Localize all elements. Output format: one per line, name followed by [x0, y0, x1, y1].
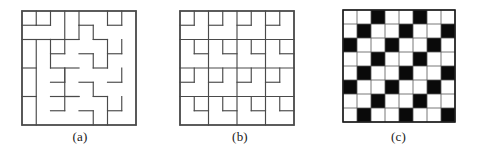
board-cell-white: [441, 10, 455, 24]
board-cell-white: [343, 10, 357, 24]
board-cell-white: [371, 108, 385, 122]
board-cell-white: [413, 108, 427, 122]
board-cell-white: [371, 24, 385, 38]
board-cell-white: [385, 108, 399, 122]
board-cell-white: [385, 52, 399, 66]
board-cell-white: [413, 38, 427, 52]
checkerboard-diagram-c: [320, 0, 477, 128]
board-cell-black: [385, 80, 399, 94]
tiling-diagram-b: [160, 0, 320, 128]
board-cell-white: [441, 38, 455, 52]
board-cell-black: [441, 66, 455, 80]
board-cell-white: [399, 94, 413, 108]
board-cell-black: [371, 52, 385, 66]
tiling-svg-a: [0, 0, 160, 128]
board-cell-black: [357, 66, 371, 80]
board-cell-black: [343, 80, 357, 94]
board-cell-white: [427, 10, 441, 24]
board-cell-black: [357, 108, 371, 122]
board-cell-white: [357, 38, 371, 52]
board-cell-white: [371, 80, 385, 94]
board-cell-white: [357, 10, 371, 24]
board-cell-white: [343, 108, 357, 122]
tiling-svg-b: [160, 0, 320, 128]
board-cell-white: [343, 94, 357, 108]
tiling-diagram-a: [0, 0, 160, 128]
board-cell-black: [399, 66, 413, 80]
board-cell-white: [427, 66, 441, 80]
board-cell-white: [385, 10, 399, 24]
figure-panel-b: (b): [160, 0, 320, 143]
panel-caption-b: (b): [232, 130, 248, 143]
board-cell-white: [427, 108, 441, 122]
figure-panel-c: (c): [320, 0, 477, 143]
board-cell-white: [385, 94, 399, 108]
board-cell-white: [441, 52, 455, 66]
board-cell-white: [385, 24, 399, 38]
board-cell-white: [357, 52, 371, 66]
board-cell-black: [357, 24, 371, 38]
panel-caption-c: (c): [391, 130, 406, 143]
board-cell-white: [427, 94, 441, 108]
board-cell-white: [413, 66, 427, 80]
board-cell-black: [371, 10, 385, 24]
board-cell-white: [357, 94, 371, 108]
board-cell-black: [441, 108, 455, 122]
board-cell-black: [343, 38, 357, 52]
board-cell-black: [441, 24, 455, 38]
board-cell-black: [371, 94, 385, 108]
board-cell-white: [441, 94, 455, 108]
board-cell-black: [385, 38, 399, 52]
board-cell-black: [399, 24, 413, 38]
board-cell-white: [413, 80, 427, 94]
figure-panel-a: (a): [0, 0, 160, 143]
board-cell-black: [427, 80, 441, 94]
board-cell-white: [399, 10, 413, 24]
board-cell-white: [343, 52, 357, 66]
checkerboard-svg-c: [320, 0, 477, 128]
board-cell-white: [399, 38, 413, 52]
board-cell-white: [371, 66, 385, 80]
board-cell-black: [399, 108, 413, 122]
board-cell-white: [427, 52, 441, 66]
board-cell-black: [427, 38, 441, 52]
board-cell-white: [441, 80, 455, 94]
figure-row: (a) (b) (c): [0, 0, 477, 161]
board-cell-white: [371, 38, 385, 52]
board-cell-white: [385, 66, 399, 80]
board-cell-black: [413, 94, 427, 108]
board-cell-white: [343, 66, 357, 80]
board-cell-white: [399, 52, 413, 66]
board-cell-white: [357, 80, 371, 94]
board-cell-black: [413, 52, 427, 66]
board-cell-white: [343, 24, 357, 38]
board-cell-white: [413, 24, 427, 38]
board-cell-white: [399, 80, 413, 94]
board-cell-black: [413, 10, 427, 24]
board-cell-white: [427, 24, 441, 38]
panel-caption-a: (a): [72, 130, 87, 143]
